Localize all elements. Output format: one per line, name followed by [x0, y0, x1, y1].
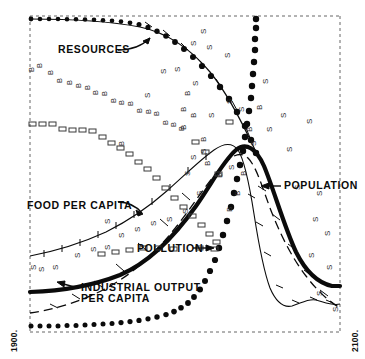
svg-text:S: S: [117, 233, 126, 238]
svg-text:B: B: [225, 207, 234, 212]
svg-text:B: B: [245, 127, 254, 132]
svg-text:B: B: [35, 63, 44, 68]
svg-text:B: B: [117, 141, 126, 146]
world-model-chart: B B B B B B B B B B B B B B B B B B B: [0, 0, 365, 359]
svg-text:S: S: [305, 119, 314, 124]
svg-text:S: S: [265, 127, 274, 132]
svg-text:S: S: [149, 221, 158, 226]
svg-text:S: S: [103, 245, 112, 250]
svg-text:S: S: [285, 147, 294, 152]
svg-text:S: S: [133, 227, 142, 232]
svg-text:S: S: [199, 149, 208, 154]
svg-text:S: S: [199, 29, 208, 34]
svg-text:B: B: [46, 70, 55, 75]
svg-text:S: S: [51, 265, 60, 270]
svg-text:B: B: [183, 91, 192, 96]
svg-text:S: S: [207, 113, 216, 118]
svg-text:B: B: [83, 85, 92, 90]
svg-text:B: B: [215, 173, 224, 178]
svg-text:B: B: [55, 78, 64, 83]
svg-text:B: B: [117, 100, 126, 105]
svg-text:B: B: [179, 107, 188, 112]
svg-text:S: S: [311, 217, 320, 222]
svg-text:B: B: [199, 137, 208, 142]
annotation-population: POPULATION: [284, 180, 358, 191]
svg-text:S: S: [103, 219, 112, 224]
svg-text:B: B: [126, 101, 135, 106]
svg-text:S: S: [315, 291, 324, 296]
svg-text:S: S: [315, 191, 324, 196]
series-resources: [29, 17, 260, 157]
svg-text:B: B: [91, 90, 100, 95]
svg-text:S: S: [249, 141, 258, 146]
svg-text:S: S: [181, 209, 190, 214]
svg-text:S: S: [189, 41, 198, 46]
svg-text:S: S: [143, 93, 152, 98]
svg-text:B: B: [255, 105, 264, 110]
annotation-resources: RESOURCES: [58, 44, 130, 55]
svg-text:S: S: [227, 165, 236, 170]
svg-text:S: S: [323, 231, 332, 236]
svg-text:S: S: [165, 217, 174, 222]
axis-label-start-year: 1900.: [9, 330, 19, 352]
annotation-industrial-line2: PER CAPITA: [81, 293, 201, 304]
svg-text:B: B: [135, 108, 144, 113]
svg-text:B: B: [233, 191, 242, 196]
svg-text:S: S: [159, 69, 168, 74]
resources-markers: [29, 17, 260, 157]
svg-text:S: S: [225, 99, 234, 104]
pollution-arrowhead: [206, 245, 214, 251]
svg-text:B: B: [239, 171, 248, 176]
svg-text:B: B: [189, 113, 198, 118]
svg-text:S: S: [237, 107, 246, 112]
series-population: [30, 147, 340, 292]
annotation-industrial-output: INDUSTRIAL OUTPUT PER CAPITA: [81, 282, 201, 305]
series-services-letters: S S S S S S S S S S S S S S S S S S S S …: [29, 29, 340, 312]
svg-text:S: S: [89, 247, 98, 252]
svg-text:S: S: [279, 113, 288, 118]
svg-text:S: S: [183, 171, 192, 176]
svg-text:S: S: [195, 191, 204, 196]
axis-label-end-year: 2100.: [350, 330, 360, 352]
svg-text:B: B: [100, 91, 109, 96]
svg-text:B: B: [74, 83, 83, 88]
svg-text:S: S: [37, 267, 46, 272]
series-marker-band-upper: B B B B B B B B B B B B B B B B B B B: [27, 63, 186, 146]
svg-text:S: S: [325, 265, 334, 270]
svg-text:B: B: [152, 111, 161, 116]
svg-text:S: S: [307, 253, 316, 258]
svg-text:B: B: [203, 161, 212, 166]
svg-text:S: S: [173, 67, 182, 72]
svg-text:S: S: [191, 81, 200, 86]
svg-text:S: S: [261, 79, 270, 84]
svg-text:S: S: [223, 53, 232, 58]
population-line: [30, 147, 340, 292]
svg-text:S: S: [205, 45, 214, 50]
svg-text:S: S: [189, 155, 198, 160]
industrial-arrowhead: [57, 281, 65, 287]
annotation-pollution: POLLUTION: [137, 243, 203, 254]
svg-text:S: S: [331, 307, 340, 312]
annotation-food-per-capita: FOOD PER CAPITA: [27, 200, 132, 211]
svg-text:B: B: [179, 125, 188, 130]
svg-text:S: S: [73, 253, 82, 258]
svg-text:B: B: [65, 80, 74, 85]
